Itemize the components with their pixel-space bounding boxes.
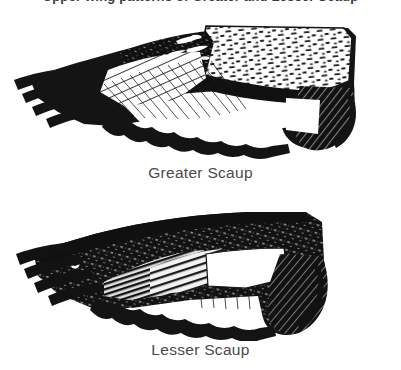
figure-greater-scaup-wing: [0, 8, 401, 163]
greater-scaup-wing-drawing: [14, 20, 365, 159]
lesser-scaup-wing-drawing: [16, 212, 328, 341]
cropped-heading-text: Upper wing patterns of Greater and Lesse…: [0, 0, 401, 5]
figure-lesser-scaup-wing: [0, 196, 401, 341]
caption-lesser-scaup: Lesser Scaup: [0, 341, 401, 370]
caption-greater-scaup: Greater Scaup: [0, 164, 401, 182]
illustration-plate: Upper wing patterns of Greater and Lesse…: [0, 0, 401, 370]
gs-base-notch: [286, 98, 320, 134]
